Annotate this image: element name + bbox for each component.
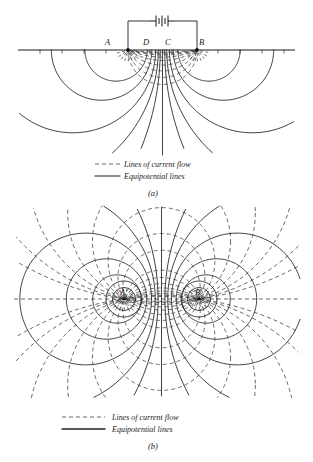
electrode-b-panel-a-dot — [123, 298, 126, 301]
panel-a-legend: Lines of current flow Equipotential line… — [95, 160, 191, 181]
panel-b-field-lines — [16, 206, 300, 398]
legend-b-current-flow-label: Lines of current flow — [111, 413, 179, 422]
electrode-label-d: D — [142, 37, 150, 47]
equipotential-line-a — [178, 50, 240, 81]
equipotential-line-a — [85, 50, 147, 81]
panel-b-electrode-label-b: B — [195, 287, 200, 297]
panel-b: A B Lines of current flow Equipotential … — [14, 206, 300, 451]
panel-a-field-lines — [20, 50, 294, 155]
electrode-field-figure: A D C B Lines of current flow Equipotent… — [0, 0, 313, 462]
panel-a-caption: (a) — [148, 188, 158, 198]
circuit-group — [128, 16, 197, 51]
equipotential-circle-b — [137, 209, 158, 299]
legend-a-equipotential-label: Equipotential lines — [123, 172, 185, 181]
legend-a-current-flow-label: Lines of current flow — [123, 160, 191, 169]
equipotential-line-a — [112, 50, 158, 153]
panel-b-legend: Lines of current flow Equipotential line… — [62, 413, 179, 434]
panel-a: A D C B Lines of current flow Equipotent… — [18, 16, 295, 199]
electrode-fan-line — [200, 51, 208, 53]
equipotential-circle-b — [176, 259, 256, 339]
electrode-fan-line — [199, 52, 204, 58]
electrode-b-dot — [195, 48, 199, 52]
panel-b-electrode-label-a: A — [119, 287, 126, 297]
panel-b-caption: (b) — [148, 441, 158, 451]
electrode-fan-line — [200, 52, 207, 56]
equipotential-circle-b — [94, 299, 155, 397]
equipotential-line-a — [167, 50, 213, 153]
electrode-label-c: C — [165, 37, 171, 47]
battery-icon — [150, 16, 174, 27]
equipotential-line-a — [169, 50, 293, 133]
electrode-label-a: A — [104, 37, 111, 47]
current-flow-circle-b — [221, 206, 231, 241]
legend-b-equipotential-label: Equipotential lines — [111, 425, 173, 434]
electrode-b-panel-b-dot — [198, 298, 201, 301]
electrode-a-dot — [126, 48, 130, 52]
electrode-label-b: B — [199, 37, 204, 47]
current-flow-circle-b — [255, 385, 256, 397]
